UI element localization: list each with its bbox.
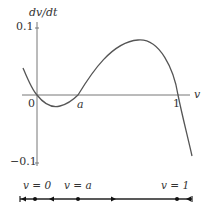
y-axis-label: dv/dt [29,6,57,19]
root-a-label: a [77,98,84,111]
x-axis-label: v [194,88,200,101]
phase-label-v1: v = 1 [161,179,189,191]
root-1-label: 1 [173,97,180,110]
arrow-right-icon [111,197,116,202]
equilibrium-dot-0 [33,197,37,201]
origin-label: 0 [28,97,35,110]
arrow-left-icon [186,197,191,202]
phase-label-v0: v = 0 [23,179,51,191]
equilibrium-dot-1 [175,197,179,201]
phase-label-va: v = a [64,179,92,191]
arrow-left-icon [49,197,54,202]
y-tick-label-bottom: −0.1 [10,155,37,168]
equilibrium-dot-a [76,197,80,201]
y-tick-label-top: 0.1 [16,20,34,33]
arrow-left-icon [21,197,26,202]
dvdt-curve [23,40,192,156]
